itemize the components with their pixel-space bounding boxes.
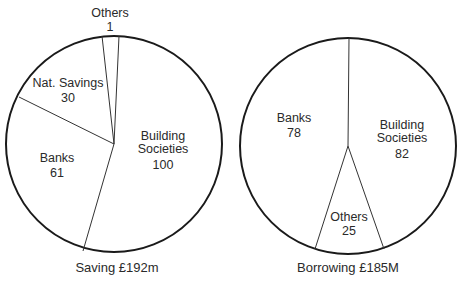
borrowing-pie: Banks 78 Building Societies 82 Others 25…: [240, 38, 456, 275]
borrowing-label-others-value: 25: [342, 224, 356, 238]
saving-label-natsavings-value: 30: [61, 91, 75, 105]
saving-label-banks-name: Banks: [40, 151, 75, 165]
pie-charts: Others 1 Nat. Savings 30 Banks 61 Buildi…: [0, 0, 462, 286]
saving-label-building-value: 100: [153, 158, 174, 172]
borrowing-label-others-name: Others: [330, 210, 368, 224]
saving-label-building-line1: Building: [141, 129, 186, 143]
borrowing-label-building-line1: Building: [380, 118, 425, 132]
borrowing-caption: Borrowing £185M: [297, 260, 399, 275]
saving-label-building-line2: Societies: [138, 142, 189, 156]
borrowing-label-building-line2: Societies: [377, 131, 428, 145]
borrowing-label-building-value: 82: [395, 147, 409, 161]
saving-label-others-value: 1: [107, 20, 114, 34]
saving-caption: Saving £192m: [75, 260, 158, 275]
saving-pie: Others 1 Nat. Savings 30 Banks 61 Buildi…: [6, 6, 222, 275]
saving-label-banks-value: 61: [50, 166, 64, 180]
saving-label-natsavings-name: Nat. Savings: [33, 76, 104, 90]
saving-label-others-name: Others: [91, 6, 129, 20]
borrowing-label-banks-value: 78: [287, 126, 301, 140]
borrowing-label-banks-name: Banks: [277, 111, 312, 125]
